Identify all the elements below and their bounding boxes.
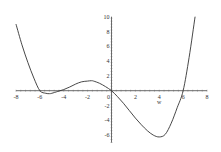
x-tick-label: -4 <box>61 94 66 100</box>
y-tick-label: 4 <box>107 58 110 64</box>
function-plot: -8-6-4-202468-6-4-2246810 w <box>0 0 221 152</box>
x-tick-label: -2 <box>85 94 90 100</box>
x-tick-label: -8 <box>13 94 18 100</box>
axes <box>16 17 207 143</box>
y-tick-label: -6 <box>105 132 110 138</box>
y-tick-label: 6 <box>107 43 110 49</box>
y-tick-label: 10 <box>104 14 110 20</box>
x-axis-label: w <box>157 99 162 105</box>
x-tick-label: 2 <box>134 94 137 100</box>
tick-labels: -8-6-4-202468-6-4-2246810 <box>13 14 208 138</box>
x-tick-label: 8 <box>206 94 209 100</box>
x-tick-label: -6 <box>37 94 42 100</box>
y-tick-label: -2 <box>105 103 110 109</box>
y-tick-label: 8 <box>107 29 110 35</box>
y-tick-label: 2 <box>107 73 110 79</box>
y-tick-label: -4 <box>105 117 110 123</box>
x-tick-label: 0 <box>107 94 110 100</box>
